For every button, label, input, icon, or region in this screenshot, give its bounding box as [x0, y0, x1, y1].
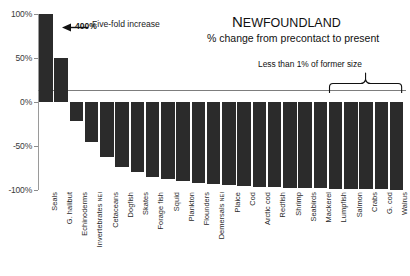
x-axis-category-label: Walrus: [400, 192, 409, 215]
bar: [131, 102, 145, 172]
x-axis-category-label: Plankton: [187, 192, 196, 221]
x-axis-category-label: Invertebrates NEI: [95, 192, 104, 247]
bar: [39, 14, 53, 102]
bar: [314, 102, 328, 188]
x-axis-category-label: Shrimp: [294, 192, 303, 216]
y-tick-label: 0%: [20, 97, 32, 107]
bar-slot: [85, 14, 99, 190]
five-fold-increase-annotation: Five-fold increase: [92, 19, 160, 29]
bar: [192, 102, 206, 183]
newfoundland-percent-change-chart: 100%50%0%-50%-100% 400% SealsG. halibutE…: [0, 0, 410, 276]
curly-brace-icon: [328, 72, 403, 94]
bar: [359, 102, 373, 189]
bar-slot: [39, 14, 53, 190]
bar-slot: [100, 14, 114, 190]
x-axis-category-label: Mackerel: [324, 192, 333, 222]
bar-slot: [176, 14, 190, 190]
bar: [344, 102, 358, 189]
left-arrow-icon: [62, 23, 88, 32]
x-axis-category-label: Cetaceans: [111, 192, 120, 228]
x-axis-category-label: Echinoderms: [80, 192, 89, 236]
chart-title-text: NEWFOUNDLAND: [232, 16, 341, 30]
y-tick-mark: [34, 14, 38, 15]
x-axis-category-label: Forage fish: [156, 192, 165, 230]
bar: [100, 102, 114, 157]
bar-slot: [70, 14, 84, 190]
x-axis-category-label: Arctic cod: [263, 192, 272, 225]
x-axis-category-label: Seabirds: [309, 192, 318, 222]
y-tick-mark: [34, 190, 38, 191]
x-axis-category-label: Squid: [172, 192, 181, 211]
bar: [146, 102, 160, 177]
y-tick-label: -50%: [13, 141, 32, 151]
bar: [115, 102, 129, 167]
bar: [268, 102, 282, 187]
x-axis-category-label: Demersals NEI: [217, 192, 226, 239]
y-tick-mark: [34, 146, 38, 147]
bar: [253, 102, 267, 187]
bar-slot: [131, 14, 145, 190]
bar-slot: [115, 14, 129, 190]
y-tick-label: -100%: [8, 185, 32, 195]
x-axis-category-label: Cod: [248, 192, 257, 206]
x-axis-category-label: Skates: [141, 192, 150, 215]
x-axis-category-label: Seals: [50, 192, 59, 211]
y-tick-mark: [34, 58, 38, 59]
chart-subtitle: % change from precontact to present: [207, 32, 379, 44]
x-axis-category-label: Salmon: [355, 192, 364, 217]
bar: [70, 102, 84, 121]
bar-slot: [161, 14, 175, 190]
x-axis-category-labels: SealsG. halibutEchinodermsInvertebrates …: [39, 192, 407, 274]
bar: [390, 102, 404, 190]
bar: [207, 102, 221, 184]
bar: [375, 102, 389, 189]
bar: [161, 102, 175, 179]
x-axis-category-label: G. cod: [385, 192, 394, 214]
bar: [298, 102, 312, 188]
x-axis-category-label: Lumpfish: [339, 192, 348, 222]
bar: [237, 102, 251, 186]
y-tick-mark: [34, 102, 38, 103]
y-tick-label: 50%: [16, 53, 32, 63]
bar-slot: [390, 14, 404, 190]
bar: [329, 102, 343, 189]
x-axis-category-label: Flounders: [202, 192, 211, 225]
y-tick-label: 100%: [11, 9, 32, 19]
x-axis-category-label: Redfish: [278, 192, 287, 217]
less-than-one-percent-annotation: Less than 1% of former size: [258, 59, 362, 69]
bar-slot: [54, 14, 68, 190]
x-axis-category-label: Dogfish: [126, 192, 135, 217]
bar: [85, 102, 99, 142]
bar: [54, 58, 68, 102]
bar: [176, 102, 190, 181]
bar: [222, 102, 236, 185]
chart-title: NEWFOUNDLAND: [232, 13, 341, 30]
bar: [283, 102, 297, 188]
x-axis-category-label: Plaice: [233, 192, 242, 212]
x-axis-category-label: G. halibut: [65, 192, 74, 224]
x-axis-category-label: Crabs: [370, 192, 379, 212]
bar-slot: [192, 14, 206, 190]
bar-slot: [146, 14, 160, 190]
